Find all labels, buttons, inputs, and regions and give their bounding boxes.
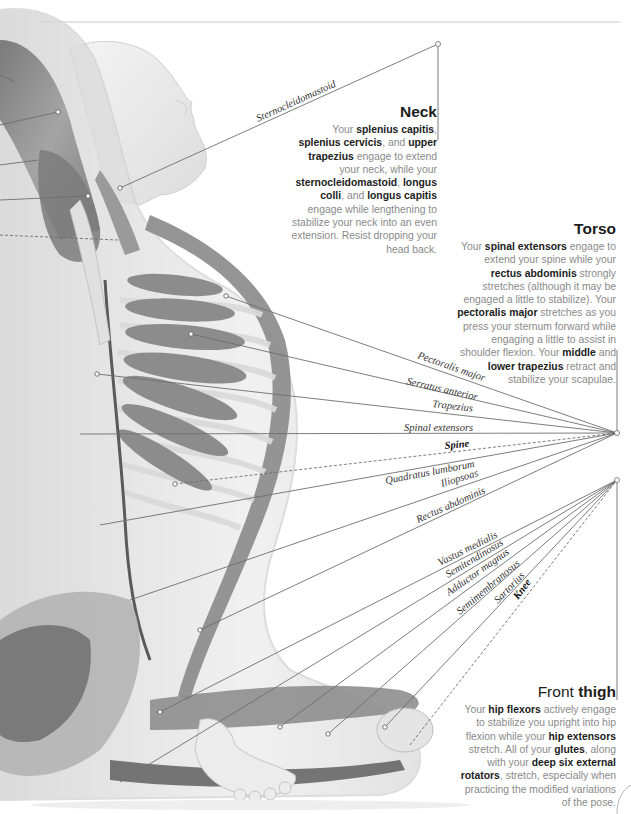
neck-title: Neck (290, 103, 437, 121)
page-corner-arc (617, 785, 631, 814)
torso-title: Torso (455, 220, 616, 238)
thigh-panel: Front thigh Your hip flexors actively en… (455, 683, 616, 809)
anatomy-diagram: Sternocleidomastoid Pectoralis major Ser… (0, 0, 631, 814)
thigh-description: Your hip flexors actively engage to stab… (455, 703, 616, 809)
neck-panel: Neck Your splenius capitis, splenius cer… (290, 103, 437, 256)
thigh-title: Front thigh (455, 683, 616, 701)
label-spinal-extensors: Spinal extensors (404, 422, 473, 433)
neck-description: Your splenius capitis, splenius cervicis… (290, 123, 437, 256)
label-spine: Spine (444, 438, 470, 451)
torso-panel: Torso Your spinal extensors engage to ex… (455, 220, 616, 386)
torso-description: Your spinal extensors engage to extend y… (455, 240, 616, 386)
label-trapezius: Trapezius (432, 398, 474, 414)
